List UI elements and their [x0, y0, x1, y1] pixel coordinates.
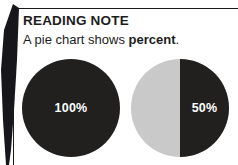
reading-note-subtitle: A pie chart shows percent. — [23, 32, 179, 47]
reading-note-card: READING NOTE A pie chart shows percent. … — [13, 8, 238, 165]
subtitle-suffix-text: . — [175, 32, 179, 47]
pie-chart-full: 100% — [22, 59, 120, 157]
subtitle-prefix-text: A pie chart shows — [23, 32, 129, 47]
reading-note-heading: READING NOTE — [23, 13, 129, 28]
subtitle-emphasis-text: percent — [129, 32, 176, 47]
pie-chart-half: 50% — [131, 59, 229, 157]
pie-label-50: 50% — [180, 101, 229, 115]
pie-label-100: 100% — [22, 101, 120, 115]
reading-note-figure: READING NOTE A pie chart shows percent. … — [0, 0, 238, 165]
